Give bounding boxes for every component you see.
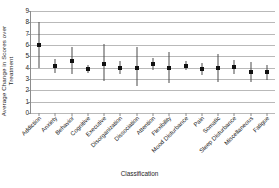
- data-point: [102, 62, 106, 66]
- data-point: [53, 64, 57, 68]
- data-series: [31, 11, 275, 113]
- data-point: [232, 65, 236, 69]
- data-point: [70, 59, 74, 63]
- data-point: [265, 70, 269, 74]
- data-point: [216, 66, 220, 70]
- plot-area: [30, 11, 275, 114]
- data-point: [135, 66, 139, 70]
- x-axis-tick-labels: AddictionAnxietyBehaviorCognitiveExecuti…: [30, 115, 274, 167]
- data-point: [37, 43, 41, 47]
- data-point: [167, 66, 171, 70]
- x-tick-label-text: Pain: [192, 115, 205, 128]
- x-axis-title: Classification: [0, 170, 279, 177]
- x-tick-label-text: Fatigue: [252, 115, 271, 134]
- data-point: [249, 70, 253, 74]
- data-point: [151, 62, 155, 66]
- data-point: [184, 64, 188, 68]
- data-point: [86, 67, 90, 71]
- data-point: [200, 67, 204, 71]
- y-axis-tick-labels: 0123456789: [17, 8, 29, 114]
- data-point: [118, 66, 122, 70]
- error-bar-chart: Average Change in Scores over Treatment …: [0, 0, 279, 188]
- y-tick-mark-0: [28, 113, 31, 114]
